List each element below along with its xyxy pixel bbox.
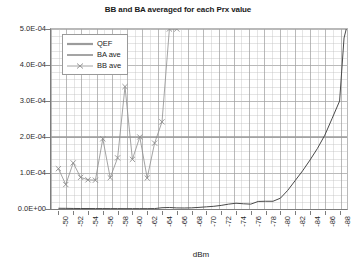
legend-label-bb-ave: BB ave	[97, 61, 121, 70]
x-tick-label: -80	[283, 216, 292, 227]
x-tick-label: -78	[269, 216, 278, 227]
x-tick-mark	[340, 211, 341, 215]
x-tick-label: -86	[328, 216, 337, 227]
x-tick-label: -64	[165, 216, 174, 227]
x-tick-mark	[132, 211, 133, 215]
legend-swatch-ba-ave	[66, 50, 94, 60]
x-tick-mark	[73, 211, 74, 215]
x-tick-mark	[251, 211, 252, 215]
x-tick-mark	[206, 211, 207, 215]
y-tick-mark	[45, 65, 50, 66]
chart-container: BB and BA averaged for each Prx value QE…	[0, 0, 356, 271]
data-point-marker	[63, 182, 68, 187]
y-tick-label: 1.0E-04	[0, 168, 46, 177]
y-tick-mark	[45, 101, 50, 102]
legend-item-qef: QEF	[66, 38, 121, 49]
x-tick-mark	[236, 211, 237, 215]
x-tick-mark	[295, 211, 296, 215]
data-point-marker	[56, 166, 61, 171]
x-tick-label: -52	[76, 216, 85, 227]
x-tick-label: -82	[298, 216, 307, 227]
chart-legend: QEF BA ave BB ave	[62, 34, 128, 75]
x-tick-label: -74	[239, 216, 248, 227]
legend-item-ba-ave: BA ave	[66, 49, 121, 60]
x-axis-title: dBm	[0, 250, 356, 259]
data-point-marker	[78, 175, 83, 180]
x-tick-mark	[88, 211, 89, 215]
x-tick-label: -58	[121, 216, 130, 227]
x-tick-label: -68	[195, 216, 204, 227]
chart-title: BB and BA averaged for each Prx value	[0, 5, 356, 14]
legend-label-qef: QEF	[97, 39, 112, 48]
y-tick-label: 4.0E-04	[0, 60, 46, 69]
x-tick-label: -56	[106, 216, 115, 227]
y-tick-mark	[45, 29, 50, 30]
x-tick-mark	[192, 211, 193, 215]
x-tick-label: -70	[209, 216, 218, 227]
x-tick-label: -62	[150, 216, 159, 227]
x-tick-mark	[103, 211, 104, 215]
y-tick-label: 2.0E-04	[0, 132, 46, 141]
x-tick-label: -54	[91, 216, 100, 227]
x-tick-label: -76	[254, 216, 263, 227]
x-tick-mark	[162, 211, 163, 215]
y-tick-mark	[45, 137, 50, 138]
x-tick-mark	[266, 211, 267, 215]
x-tick-label: -66	[180, 216, 189, 227]
x-tick-mark	[118, 211, 119, 215]
x-tick-mark	[177, 211, 178, 215]
x-tick-mark	[221, 211, 222, 215]
legend-label-ba-ave: BA ave	[97, 50, 121, 59]
x-tick-label: -60	[135, 216, 144, 227]
x-tick-label: -84	[313, 216, 322, 227]
legend-swatch-bb-ave	[66, 61, 94, 71]
x-tick-label: -50	[61, 216, 70, 227]
y-tick-label: 0.0E+00	[0, 204, 46, 213]
x-tick-label: -88	[343, 216, 352, 227]
y-tick-label: 5.0E-04	[0, 24, 46, 33]
x-tick-mark	[310, 211, 311, 215]
x-tick-mark	[147, 211, 148, 215]
x-tick-mark	[58, 211, 59, 215]
data-point-marker	[71, 160, 76, 165]
x-tick-mark	[325, 211, 326, 215]
x-tick-label: -72	[224, 216, 233, 227]
legend-item-bb-ave: BB ave	[66, 60, 121, 71]
legend-swatch-qef	[66, 39, 94, 49]
y-tick-mark	[45, 209, 50, 210]
y-tick-label: 3.0E-04	[0, 96, 46, 105]
x-tick-mark	[280, 211, 281, 215]
y-tick-mark	[45, 173, 50, 174]
